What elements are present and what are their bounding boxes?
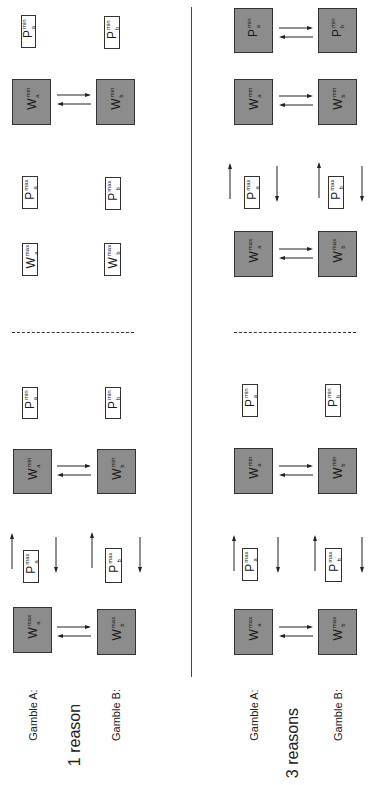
p-max-a-box-lower: Pmaxa	[23, 550, 39, 583]
p-min-b-box: Pminb	[318, 8, 357, 53]
p-min-a-label: Pmina	[248, 24, 260, 36]
p-min-a-box: Pmina	[234, 8, 273, 53]
gamble-b-label: Gamble B:	[110, 687, 122, 743]
w-min-b-box-lower: Wminb	[97, 449, 136, 494]
w-min-b-label: Wminb	[110, 94, 122, 109]
p-min-b-box-lower: Pminb	[325, 384, 341, 417]
p-max-b-box-upper: Pmaxb	[328, 176, 344, 209]
w-max-b-box-lower: Wmaxb	[318, 609, 357, 655]
panel-title-1-reason: 1 reason	[66, 695, 84, 775]
p-min-b-label: Pminb	[332, 24, 344, 36]
up-arrow-icon	[9, 533, 15, 569]
up-arrow-icon	[227, 163, 233, 199]
p-max-b-box-upper: Pmaxb	[105, 177, 121, 210]
w-max-b-label-upper: Wmaxb	[331, 245, 343, 262]
w-min-b-label: Wminb	[332, 94, 344, 109]
w-min-b-box: Wminb	[96, 79, 135, 125]
down-arrow-icon	[274, 166, 280, 202]
swap-arrows-icon	[279, 26, 313, 40]
gamble-b-label: Gamble B:	[332, 687, 344, 743]
w-min-a-box: Wmina	[234, 79, 273, 125]
panel-title-3-reasons: 3 reasons	[284, 698, 302, 785]
w-max-a-label: Wmaxa	[24, 251, 36, 268]
down-arrow-icon	[137, 537, 143, 573]
w-max-b-label-lower: Wmaxb	[331, 623, 343, 640]
w-min-a-label: Wmina	[26, 94, 38, 109]
p-max-b-label-lower: Pmaxb	[327, 558, 339, 572]
p-min-a-label-lower: Pmina	[24, 397, 36, 409]
p-max-b-label-lower: Pmaxb	[107, 559, 119, 573]
down-arrow-icon	[53, 537, 59, 573]
p-max-b-label: Pmaxb	[107, 187, 119, 201]
panel-divider	[191, 7, 192, 677]
w-max-a-box-lower: Wmaxa	[234, 609, 273, 655]
swap-arrows-icon	[279, 247, 313, 261]
swap-arrows-icon	[57, 93, 91, 107]
section-divider-dashed	[234, 332, 356, 333]
w-max-b-label: Wmaxb	[107, 251, 119, 268]
up-arrow-icon	[316, 162, 322, 198]
w-min-b-box: Wminb	[318, 79, 357, 125]
w-max-a-label-lower: Wmaxa	[26, 621, 38, 638]
swap-arrows-icon	[57, 464, 91, 478]
p-max-a-label-upper: Pmaxa	[246, 186, 258, 200]
w-max-a-box-lower: Wmaxa	[13, 607, 52, 653]
p-min-b-label-lower: Pminb	[107, 397, 119, 409]
p-min-b-box: Pminb	[104, 16, 120, 49]
p-min-a-box: Pmina	[21, 15, 36, 48]
swap-arrows-icon	[279, 94, 313, 108]
w-max-b-label-lower: Wmaxb	[110, 623, 122, 640]
gamble-a-label: Gamble A:	[248, 687, 260, 743]
p-max-b-box-lower: Pmaxb	[325, 548, 342, 582]
w-min-a-box-lower: Wmina	[13, 449, 52, 494]
p-max-a-box-lower: Pmaxa	[242, 548, 258, 581]
w-max-a-label-upper: Wmaxa	[247, 245, 259, 262]
p-max-a-box-upper: Pmaxa	[22, 176, 38, 209]
w-max-b-box-upper: Wmaxb	[104, 243, 121, 276]
down-arrow-icon	[359, 537, 365, 573]
swap-arrows-icon	[279, 464, 313, 478]
up-arrow-icon	[89, 532, 95, 568]
w-max-a-label-lower: Wmaxa	[247, 623, 259, 640]
w-max-b-box-upper: Wmaxb	[318, 231, 357, 277]
w-min-b-box-lower: Wminb	[318, 448, 357, 494]
w-max-a-box-upper: Wmaxa	[22, 243, 38, 276]
w-min-b-label-lower: Wminb	[332, 463, 344, 478]
p-max-a-label-lower: Pmaxa	[244, 558, 256, 572]
w-max-a-box-upper: Wmaxa	[234, 231, 273, 277]
w-min-a-box-lower: Wmina	[234, 448, 273, 494]
p-min-b-label-lower: Pminb	[327, 394, 339, 406]
p-max-b-box-lower: Pmaxb	[105, 548, 122, 583]
p-min-a-box-lower: Pmina	[22, 387, 38, 419]
up-arrow-icon	[231, 535, 237, 571]
down-arrow-icon	[359, 166, 365, 202]
w-min-a-label: Wmina	[248, 94, 260, 109]
p-min-a-label-lower: Pmina	[244, 394, 256, 406]
p-max-a-label: Pmaxa	[24, 186, 36, 200]
w-min-a-label-lower: Wmina	[248, 463, 260, 478]
p-min-a-box-lower: Pmina	[242, 384, 258, 417]
swap-arrows-icon	[279, 625, 313, 639]
w-max-b-box-lower: Wmaxb	[97, 609, 136, 655]
p-max-b-label-upper: Pmaxb	[330, 186, 342, 200]
p-max-a-label-lower: Pmaxa	[25, 560, 37, 574]
section-divider-dashed	[12, 332, 134, 333]
down-arrow-icon	[275, 537, 281, 573]
gamble-a-label: Gamble A:	[27, 687, 39, 743]
swap-arrows-icon	[57, 625, 91, 639]
w-min-a-label-lower: Wmina	[27, 464, 39, 479]
p-max-a-box-upper: Pmaxa	[244, 176, 260, 209]
p-min-a-label: Pmina	[23, 25, 35, 37]
p-min-b-label: Pminb	[106, 26, 118, 38]
p-min-b-box-lower: Pminb	[105, 387, 121, 419]
w-min-b-label-lower: Wminb	[111, 464, 123, 479]
w-min-a-box: Wmina	[12, 79, 51, 125]
up-arrow-icon	[312, 535, 318, 571]
